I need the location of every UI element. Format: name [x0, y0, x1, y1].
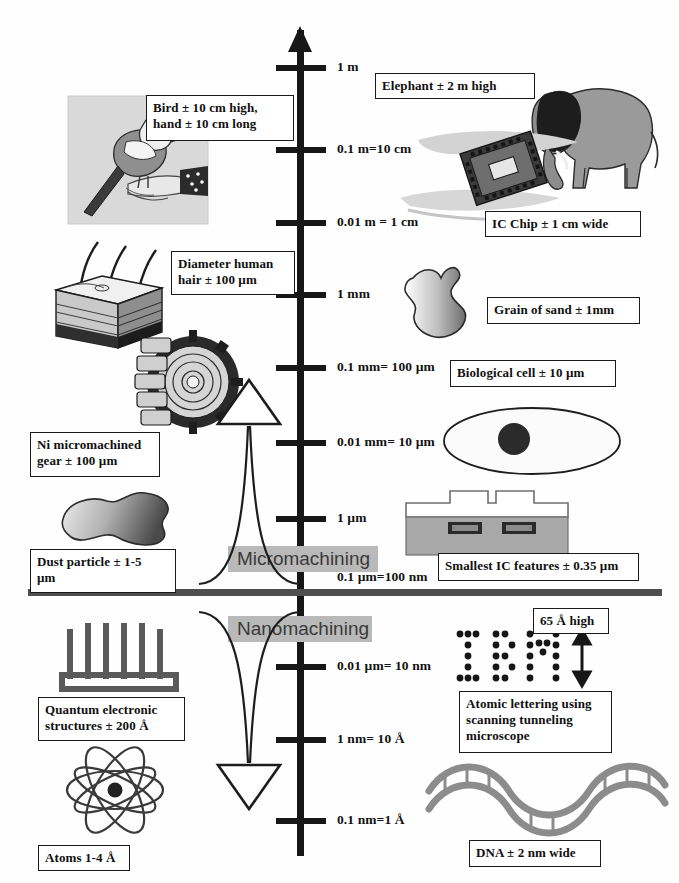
ic-cross-section-illustration	[392, 489, 582, 557]
axis-tick	[276, 220, 326, 226]
caption-atoms: Atoms 1-4 Å	[38, 845, 130, 871]
axis-tick-label: 1 m	[337, 59, 359, 75]
caption-elephant: Elephant ± 2 m high	[375, 73, 535, 99]
nanomachining-arrow	[196, 608, 306, 813]
atom-illustration	[60, 742, 170, 838]
caption-angstrom-height: 65 Å high	[533, 608, 609, 634]
caption-bird-hand: Bird ± 10 cm high, hand ± 10 cm long	[146, 95, 294, 141]
axis-tick	[276, 147, 326, 153]
axis-tick-label: 0.01 mm= 10 µm	[337, 434, 435, 450]
caption-grain-of-sand: Grain of sand ± 1mm	[487, 297, 640, 324]
scale-diagram: 1 m0.1 m=10 cm0.01 m = 1 cm1 mm0.1 mm= 1…	[0, 0, 679, 883]
quantum-comb-illustration	[58, 617, 188, 691]
caption-smallest-ic: Smallest IC features ± 0.35 µm	[438, 553, 639, 581]
axis-tick-label: 1 µm	[337, 510, 367, 526]
axis-tick-label: 1 mm	[337, 286, 370, 302]
cell-illustration	[442, 405, 622, 477]
dust-particle-illustration	[55, 485, 185, 553]
caption-human-hair: Diameter human hair ± 100 µm	[171, 251, 295, 295]
caption-biological-cell: Biological cell ± 10 µm	[450, 360, 616, 387]
axis-tick-label: 0.1 nm=1 Å	[337, 812, 405, 828]
caption-dust-particle: Dust particle ± 1-5 µm	[30, 549, 176, 593]
axis-tick	[276, 365, 326, 371]
caption-ni-gear: Ni micromachined gear ± 100 µm	[30, 432, 160, 477]
caption-atomic-lettering: Atomic lettering using scanning tunnelin…	[459, 691, 612, 753]
caption-dna: DNA ± 2 nm wide	[469, 840, 601, 867]
dna-helix-illustration	[425, 755, 670, 835]
sand-grain-illustration	[393, 262, 479, 344]
axis-tick	[276, 65, 326, 71]
axis-tick-label: 0.01 µm= 10 nm	[337, 658, 431, 674]
caption-ic-chip: IC Chip ± 1 cm wide	[485, 211, 641, 237]
micromachining-arrow	[196, 376, 306, 588]
axis-tick-label: 0.1 mm= 100 µm	[337, 359, 435, 375]
axis-tick-label: 1 nm= 10 Å	[337, 731, 405, 747]
caption-quantum-struct: Quantum electronic structures ± 200 Å	[38, 697, 185, 741]
ibm-atoms-illustration	[452, 630, 612, 692]
axis-tick	[276, 818, 326, 824]
